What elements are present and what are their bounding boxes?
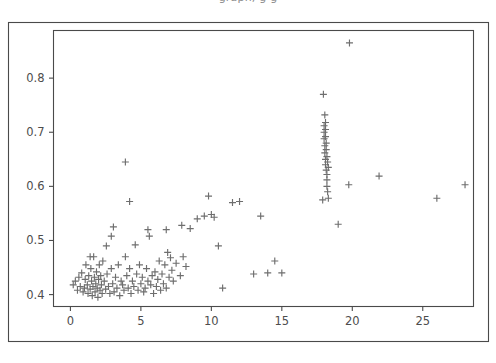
x-tick-label: 25 <box>415 314 430 328</box>
scatter-plot: 0510152025 0.40.50.60.70.8 <box>0 0 496 363</box>
x-tick-label: 0 <box>67 314 74 328</box>
figure-container: graph, g g 0510152025 0.40.50.60.70.8 <box>0 0 496 363</box>
clipped-top-text: graph, g g <box>0 0 496 3</box>
x-tick-label: 20 <box>345 314 360 328</box>
y-tick-label: 0.8 <box>26 71 44 85</box>
y-tick-label: 0.7 <box>26 125 44 139</box>
y-tick-label: 0.5 <box>26 233 44 247</box>
plot-background <box>0 0 496 363</box>
x-tick-label: 15 <box>275 314 290 328</box>
x-tick-label: 10 <box>204 314 219 328</box>
x-tick-label: 5 <box>137 314 144 328</box>
y-tick-label: 0.6 <box>26 179 44 193</box>
y-tick-label: 0.4 <box>26 288 44 302</box>
